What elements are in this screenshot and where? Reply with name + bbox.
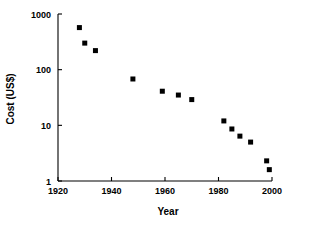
data-point-marker (82, 41, 87, 46)
y-axis-ticks (58, 14, 62, 181)
data-point-marker (264, 158, 269, 163)
y-tick-label: 100 (36, 65, 51, 75)
data-point-marker (189, 97, 194, 102)
data-point-marker (237, 134, 242, 139)
x-axis-title: Year (157, 206, 178, 217)
y-tick-label: 1 (46, 177, 51, 187)
y-tick-label: 1000 (31, 10, 51, 20)
y-axis-title: Cost (US$) (5, 73, 16, 124)
x-axis-tick-labels: 19201940196019802000 (48, 186, 282, 196)
scatter-plot-svg: 1101001000 19201940196019802000 Year Cos… (0, 0, 312, 225)
x-tick-label: 2000 (262, 186, 282, 196)
x-axis-ticks (58, 177, 272, 181)
data-point-marker (229, 126, 234, 131)
y-axis-tick-labels: 1101001000 (31, 10, 51, 187)
data-point-marker (267, 167, 272, 172)
x-tick-label: 1920 (48, 186, 68, 196)
data-point-marker (77, 25, 82, 30)
data-point-marker (221, 118, 226, 123)
data-point-marker (176, 93, 181, 98)
data-point-marker (248, 140, 253, 145)
x-tick-label: 1940 (101, 186, 121, 196)
data-point-markers (77, 25, 272, 172)
y-tick-label: 10 (41, 121, 51, 131)
data-point-marker (130, 76, 135, 81)
data-point-marker (160, 89, 165, 94)
chart-container: 1101001000 19201940196019802000 Year Cos… (0, 0, 312, 225)
x-tick-label: 1960 (155, 186, 175, 196)
x-tick-label: 1980 (208, 186, 228, 196)
data-point-marker (93, 48, 98, 53)
